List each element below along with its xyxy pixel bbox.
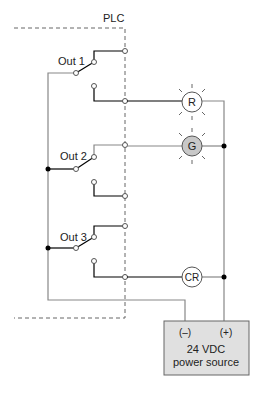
plc-wiring-diagram: PLC Out 1 Out 2 xyxy=(0,0,261,393)
control-relay-coil-icon: CR xyxy=(182,267,202,287)
output-2-label: Out 2 xyxy=(60,150,87,162)
plc-boundary xyxy=(14,28,125,318)
green-pilot-light-icon: G xyxy=(179,128,205,164)
load-cr-label: CR xyxy=(185,272,199,283)
output-1-switch xyxy=(48,49,128,249)
power-source-label: power source xyxy=(173,356,239,368)
junction-dot xyxy=(222,275,227,280)
minus-terminal-label: (–) xyxy=(179,327,191,338)
plus-terminal-label: (+) xyxy=(220,327,233,338)
load-g-label: G xyxy=(188,140,197,152)
output-3-label: Out 3 xyxy=(60,231,87,243)
power-source-box: (–) (+) 24 VDC power source xyxy=(164,321,249,375)
junction-dot xyxy=(222,144,227,149)
load-r-label: R xyxy=(188,96,196,108)
output-1-label: Out 1 xyxy=(58,55,85,67)
power-source-voltage: 24 VDC xyxy=(187,343,226,355)
plc-label: PLC xyxy=(103,12,124,24)
red-pilot-light-icon: R xyxy=(179,84,205,120)
common-wire xyxy=(48,73,185,321)
